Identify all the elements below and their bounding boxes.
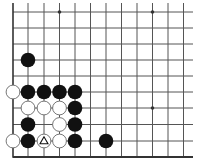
black-stone bbox=[21, 53, 36, 68]
black-stone bbox=[21, 134, 36, 149]
white-stone bbox=[53, 134, 67, 148]
black-stone bbox=[68, 85, 83, 100]
black-stone bbox=[68, 101, 83, 116]
white-stone bbox=[6, 134, 20, 148]
star-point bbox=[151, 10, 155, 14]
white-stone bbox=[53, 101, 67, 115]
black-stone bbox=[21, 85, 36, 100]
go-board bbox=[0, 0, 204, 167]
white-stone bbox=[37, 134, 51, 148]
star-point bbox=[151, 106, 155, 110]
black-stone bbox=[37, 85, 52, 100]
black-stone bbox=[68, 134, 83, 149]
white-stone bbox=[6, 85, 20, 99]
black-stone bbox=[99, 134, 114, 149]
white-stone bbox=[53, 118, 67, 132]
white-stone bbox=[37, 101, 51, 115]
black-stone bbox=[52, 85, 67, 100]
star-point bbox=[58, 10, 62, 14]
white-stone bbox=[21, 101, 35, 115]
black-stone bbox=[68, 117, 83, 132]
grid-lines bbox=[13, 3, 193, 157]
black-stone bbox=[21, 117, 36, 132]
